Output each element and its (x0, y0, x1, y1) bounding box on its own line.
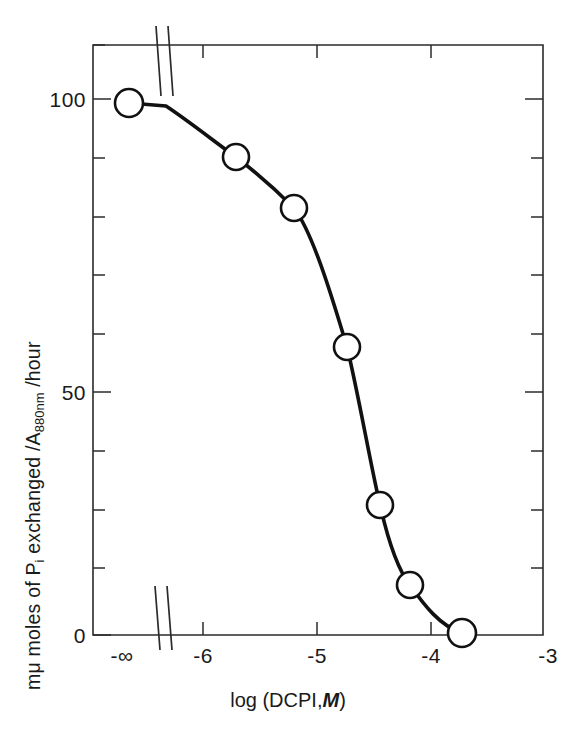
plot-frame (93, 45, 543, 635)
chart-svg: 100 50 0 -∞ -6 -5 -4 -3 log (DCPI,M) (0, 0, 577, 733)
frame-box (93, 45, 543, 635)
axis-break-bottom-stroke-1 (155, 586, 160, 650)
data-curve-line (129, 103, 462, 633)
data-point-7[interactable] (448, 619, 476, 647)
x-axis-title: log (DCPI,M) (230, 689, 346, 711)
axis-break-bottom (155, 586, 172, 650)
x-tick-label-neg-infinity: -∞ (111, 644, 134, 667)
data-point-2[interactable] (223, 144, 249, 170)
axis-break-top-stroke-2 (168, 26, 173, 96)
x-tick-labels: -∞ -6 -5 -4 -3 (111, 644, 558, 667)
x-axis-ticks-bottom (203, 622, 431, 635)
x-axis-title-suffix: ) (339, 689, 346, 711)
x-axis-title-prefix: log (DCPI, (230, 689, 322, 711)
figure-container: 100 50 0 -∞ -6 -5 -4 -3 log (DCPI,M) mμ … (0, 0, 577, 733)
x-axis-ticks-top (203, 45, 431, 58)
y-tick-label-0: 0 (74, 624, 86, 647)
axis-break-top-stroke-1 (156, 26, 161, 96)
data-point-3[interactable] (281, 195, 307, 221)
data-point-4[interactable] (334, 334, 360, 360)
data-point-1[interactable] (115, 89, 143, 117)
y-axis-ticks-right (525, 99, 543, 568)
data-markers (115, 89, 476, 647)
data-point-5[interactable] (367, 492, 393, 518)
axis-break-top (156, 26, 173, 96)
x-axis-title-italic-m: M (322, 689, 340, 711)
y-axis-ticks-left (93, 45, 111, 635)
axis-break-bottom-stroke-2 (167, 586, 172, 650)
y-tick-labels: 100 50 0 (49, 88, 86, 647)
x-tick-label-minus4: -4 (421, 644, 441, 667)
y-tick-label-50: 50 (62, 381, 86, 404)
data-series-pi-exchange (129, 103, 462, 633)
x-axis-title-text: log (DCPI,M) (230, 689, 346, 711)
x-tick-label-minus6: -6 (193, 644, 213, 667)
data-point-6[interactable] (397, 572, 423, 598)
y-tick-label-100: 100 (49, 88, 86, 111)
x-tick-label-minus5: -5 (307, 644, 327, 667)
x-tick-label-minus3: -3 (538, 644, 558, 667)
